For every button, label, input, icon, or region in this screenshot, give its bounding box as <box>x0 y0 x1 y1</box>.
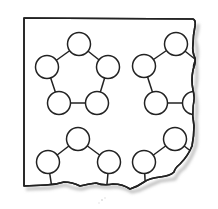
node <box>36 56 59 79</box>
node <box>98 151 121 174</box>
node <box>67 128 90 151</box>
node <box>97 56 120 79</box>
faint-marks <box>98 197 105 204</box>
node <box>48 92 71 115</box>
node <box>68 33 91 56</box>
node <box>165 33 188 56</box>
node <box>145 92 168 115</box>
node <box>164 128 187 151</box>
node <box>133 151 156 174</box>
node <box>86 92 109 115</box>
node <box>133 55 156 78</box>
node <box>37 151 60 174</box>
lattice-diagram <box>0 0 218 209</box>
